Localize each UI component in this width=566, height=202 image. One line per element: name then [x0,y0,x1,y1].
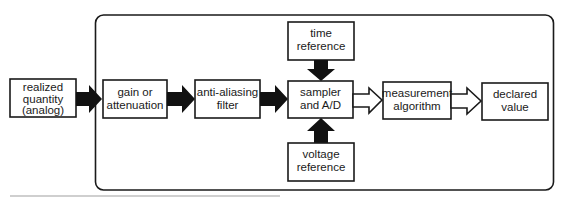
sampler-line-1: sampler [300,86,341,98]
gain-line-2: attenuation [107,99,164,111]
realized-quantity-line-1: realized [23,81,63,93]
realized-quantity-block: realized quantity (analog) [10,79,76,117]
declared-value-block: declared value [482,83,548,120]
declared-value-line-1: declared [493,88,537,100]
solid-arrow-filter-to-sampler [260,85,288,113]
solid-arrow-gain-to-filter [167,85,195,113]
time-reference-line-2: reference [297,40,346,52]
gain-block: gain or attenuation [103,80,167,118]
filter-line-2: filter [217,99,239,111]
voltage-reference-line-2: reference [297,161,346,173]
solid-arrow-time-to-sampler [307,60,335,81]
gain-line-1: gain or [117,86,152,98]
algorithm-line-1: measurement [382,87,453,99]
sampler-ad-block: sampler and A/D [288,81,353,118]
voltage-reference-block: voltage reference [288,143,354,181]
sampler-line-2: and A/D [300,99,341,111]
measurement-algorithm-block: measurement algorithm [382,82,453,119]
solid-arrow-input-to-gain [76,85,102,113]
filter-line-1: anti-aliasing [197,86,258,98]
realized-quantity-line-2: quantity [23,93,64,105]
time-reference-block: time reference [288,22,354,60]
hollow-arrow-algorithm-to-output [451,88,481,114]
anti-aliasing-filter-block: anti-aliasing filter [195,80,260,118]
time-reference-line-1: time [310,27,332,39]
realized-quantity-line-3: (analog) [22,104,64,116]
algorithm-line-2: algorithm [393,100,440,112]
solid-arrow-voltage-to-sampler [307,118,335,143]
measurement-chain-diagram: realized quantity (analog) gain or atten… [0,0,566,202]
declared-value-line-2: value [501,101,529,113]
voltage-reference-line-1: voltage [302,148,339,160]
hollow-arrow-sampler-to-algorithm [353,88,382,113]
